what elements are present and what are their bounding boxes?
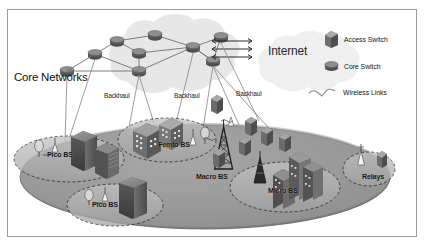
network-architecture-figure: Access Switch Core Switch Wireless Links… [0, 0, 427, 249]
legend-label-core-switch: Core Switch [344, 63, 381, 70]
relays-label: Relays [362, 172, 384, 181]
access-switch-icon [324, 31, 339, 48]
legend-item-access-switch: Access Switch [324, 31, 388, 47]
pico-bs-bottom-label: Pico BS [92, 200, 118, 209]
femto-bs-label: Femto BS [158, 140, 190, 149]
core-switch-icon [324, 60, 339, 72]
wireless-links-icon [308, 87, 339, 97]
backhaul-label: Backhaul [174, 92, 200, 99]
backhaul-label: Backhaul [236, 90, 262, 97]
macro-bs-label: Macro BS [196, 172, 228, 181]
legend-item-core-switch: Core Switch [324, 58, 388, 74]
legend-label-wireless-links: Wireless Links [343, 89, 387, 96]
backhaul-label: Backhaul [104, 92, 130, 99]
legend: Access Switch Core Switch Wireless Links [324, 31, 388, 99]
pico-bs-left-label: Pico BS [47, 150, 73, 159]
internet-label: Internet [268, 44, 307, 58]
legend-item-wireless-links: Wireless Links [308, 85, 388, 99]
micro-bs-label: Micro BS [268, 186, 298, 195]
core-networks-label: Core Networks [14, 71, 87, 83]
legend-label-access-switch: Access Switch [344, 36, 388, 43]
